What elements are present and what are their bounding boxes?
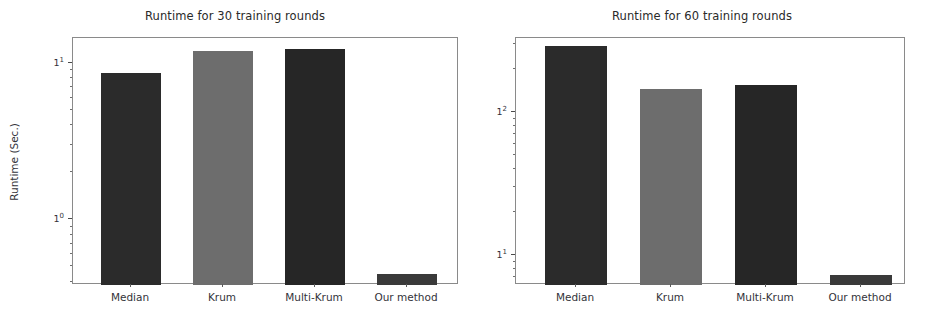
x-tick [314, 284, 315, 287]
y-tick-minor [513, 268, 515, 269]
y-tick-minor [513, 143, 515, 144]
chart-panel-right: Runtime for 60 training rounds 1112 Medi… [467, 0, 937, 323]
y-tick-minor [513, 276, 515, 277]
y-tick-major [511, 254, 515, 255]
bar-our-method [830, 275, 892, 285]
y-tick-minor [70, 243, 72, 244]
y-tick-major [511, 111, 515, 112]
y-tick-minor [70, 109, 72, 110]
figure-runtime-comparison: Runtime for 30 training rounds Runtime (… [0, 0, 937, 323]
x-tick-label-krum: Krum [208, 291, 236, 303]
y-tick-label: 11 [477, 248, 507, 260]
y-tick-minor [70, 281, 72, 282]
y-tick-minor [70, 253, 72, 254]
x-tick [765, 284, 766, 287]
plot-area-right [515, 37, 905, 284]
bar-our-method [377, 274, 437, 285]
y-tick-major [68, 218, 72, 219]
y-tick-major [68, 62, 72, 63]
plot-area-left [72, 37, 458, 284]
y-axis-label-left: Runtime (Sec.) [8, 123, 20, 201]
x-tick-label-multi-krum: Multi-Krum [285, 291, 343, 303]
y-tick-minor [513, 43, 515, 44]
y-tick-minor [70, 226, 72, 227]
x-tick-label-median: Median [111, 291, 149, 303]
y-tick-minor [513, 68, 515, 69]
y-tick-label: 10 [34, 212, 64, 224]
x-tick [575, 284, 576, 287]
chart-title-left: Runtime for 30 training rounds [0, 9, 470, 23]
x-tick [670, 284, 671, 287]
x-tick-label-our-method: Our method [374, 291, 437, 303]
y-tick-minor [70, 86, 72, 87]
y-tick-minor [70, 234, 72, 235]
x-tick [222, 284, 223, 287]
y-tick-minor [70, 69, 72, 70]
y-tick-minor [70, 77, 72, 78]
bar-krum [640, 89, 702, 285]
y-tick-minor [513, 211, 515, 212]
x-tick-label-krum: Krum [656, 291, 684, 303]
bar-median [545, 46, 607, 285]
x-tick [130, 284, 131, 287]
y-tick-minor [513, 186, 515, 187]
x-tick-label-median: Median [556, 291, 594, 303]
y-tick-label: 12 [477, 105, 507, 117]
chart-title-right: Runtime for 60 training rounds [467, 9, 937, 23]
x-tick [860, 284, 861, 287]
x-tick-label-multi-krum: Multi-Krum [736, 291, 794, 303]
x-tick-label-our-method: Our method [828, 291, 891, 303]
y-tick-minor [513, 133, 515, 134]
y-tick-minor [70, 265, 72, 266]
bars-container-left [73, 38, 457, 283]
bar-median [101, 73, 161, 285]
y-tick-minor [513, 154, 515, 155]
x-tick [406, 284, 407, 287]
bar-krum [193, 51, 253, 285]
y-tick-minor [513, 125, 515, 126]
y-tick-label: 11 [34, 56, 64, 68]
bars-container-right [516, 38, 904, 283]
y-tick-minor [70, 97, 72, 98]
bar-multi-krum [285, 49, 345, 285]
y-tick-minor [513, 261, 515, 262]
y-tick-minor [70, 144, 72, 145]
y-tick-minor [70, 124, 72, 125]
y-tick-minor [513, 168, 515, 169]
chart-panel-left: Runtime for 30 training rounds Runtime (… [0, 0, 470, 323]
y-tick-minor [513, 118, 515, 119]
y-tick-minor [70, 171, 72, 172]
bar-multi-krum [735, 85, 797, 285]
